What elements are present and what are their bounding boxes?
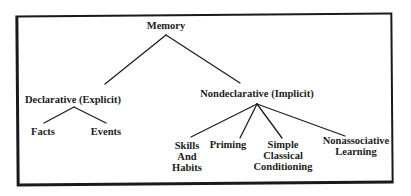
node-skills-and-habits: Skills And Habits <box>172 140 202 173</box>
edge-nondeclarative-skills <box>191 104 257 137</box>
node-priming: Priming <box>210 139 247 150</box>
edge-memory-nondeclarative <box>166 35 240 83</box>
node-nondeclarative: Nondeclarative (Implicit) <box>200 88 313 99</box>
edge-nondeclarative-priming <box>240 104 257 138</box>
edge-declarative-facts <box>44 107 74 123</box>
node-declarative: Declarative (Explicit) <box>25 94 121 105</box>
edge-nondeclarative-nonassociative <box>257 104 345 136</box>
edge-memory-declarative <box>105 35 166 84</box>
edge-declarative-events <box>74 107 106 123</box>
node-nonassociative-learning: Nonassociative Learning <box>323 135 390 157</box>
node-simple-classical-conditioning: Simple Classical Conditioning <box>254 139 313 172</box>
node-events: Events <box>91 126 121 137</box>
node-memory: Memory <box>147 20 185 31</box>
node-facts: Facts <box>31 126 55 137</box>
